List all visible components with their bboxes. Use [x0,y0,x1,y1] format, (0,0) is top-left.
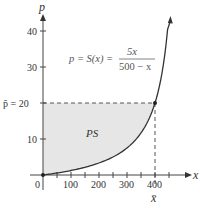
y-axis-arrow-icon [40,14,46,21]
x-tick-label-300: 300 [119,179,134,190]
producer-surplus-region [43,103,155,175]
equation-denominator: 500 − x [119,61,152,72]
supply-curve-chart: p x 0 100 200 300 400 10 30 40 p̄ = 20 x… [0,0,200,208]
y-tick-label-30: 30 [27,62,37,73]
x-axis-label: x [192,168,199,182]
x-tick-label-200: 200 [91,179,106,190]
origin-point [41,173,45,177]
y-tick-label-10: 10 [27,134,37,145]
equilibrium-point [153,101,157,105]
equation-lhs: p = S(x) = [68,53,113,65]
p-bar-label: p̄ = 20 [3,98,29,109]
x-bar-label: x̄ [150,191,157,205]
ps-region-label: PS [85,127,99,139]
equation-numerator: 5x [127,46,137,57]
y-axis-label: p [38,0,45,14]
y-tick-label-40: 40 [27,26,37,37]
x-tick-label-100: 100 [63,179,78,190]
curve-arrow-icon [168,16,173,24]
x-tick-label-400: 400 [147,179,162,190]
x-axis-arrow-icon [185,172,192,178]
origin-label: 0 [35,179,40,190]
